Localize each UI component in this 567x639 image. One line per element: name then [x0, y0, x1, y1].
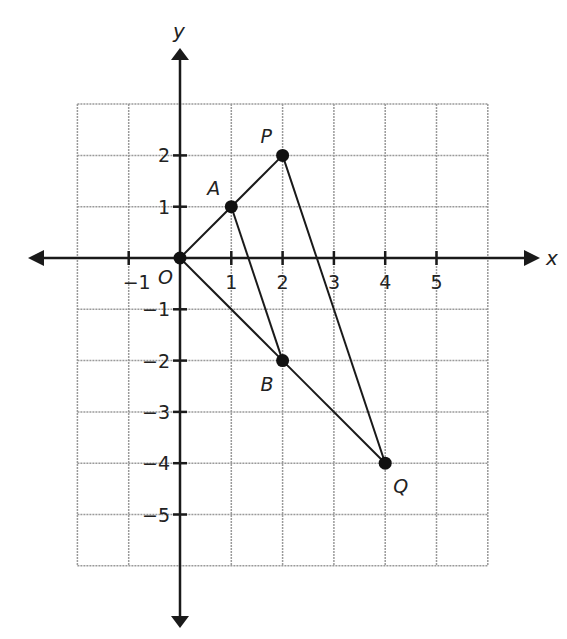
x-tick-label: 4: [379, 271, 391, 293]
y-tick-label: 1: [158, 196, 170, 218]
point-label-a: A: [205, 177, 220, 199]
point-b: [276, 354, 289, 367]
point-p: [276, 149, 289, 162]
y-tick-label: −1: [142, 298, 170, 320]
point-a: [225, 200, 238, 213]
y-tick-label: −2: [142, 350, 170, 372]
x-tick-label: −1: [123, 271, 151, 293]
segment-ap: [231, 155, 282, 206]
x-tick-label: 5: [431, 271, 443, 293]
axes: [28, 48, 540, 628]
coordinate-plane: xy−11234521−1−2−3−4−5OAPBQ: [0, 0, 567, 639]
arrow-left-icon: [28, 250, 44, 266]
arrow-up-icon: [171, 48, 189, 60]
grid: [77, 104, 487, 566]
x-tick-label: 1: [225, 271, 237, 293]
x-axis-label: x: [545, 246, 558, 270]
x-tick-label: 2: [277, 271, 289, 293]
y-axis-label: y: [172, 19, 186, 43]
segment-ab: [231, 207, 282, 361]
point-label-q: Q: [393, 475, 408, 497]
point-label-o: O: [158, 266, 173, 288]
segment-oa: [180, 207, 231, 258]
point-q: [379, 457, 392, 470]
y-tick-label: −3: [142, 401, 170, 423]
arrow-right-icon: [524, 250, 540, 266]
labels: xy−11234521−1−2−3−4−5OAPBQ: [123, 19, 558, 526]
point-label-p: P: [261, 125, 273, 147]
y-tick-label: −5: [142, 504, 170, 526]
y-tick-label: 2: [158, 144, 170, 166]
point-o: [174, 252, 187, 265]
point-label-b: B: [261, 373, 274, 395]
arrow-down-icon: [171, 616, 189, 628]
x-tick-label: 3: [328, 271, 340, 293]
y-tick-label: −4: [142, 452, 170, 474]
